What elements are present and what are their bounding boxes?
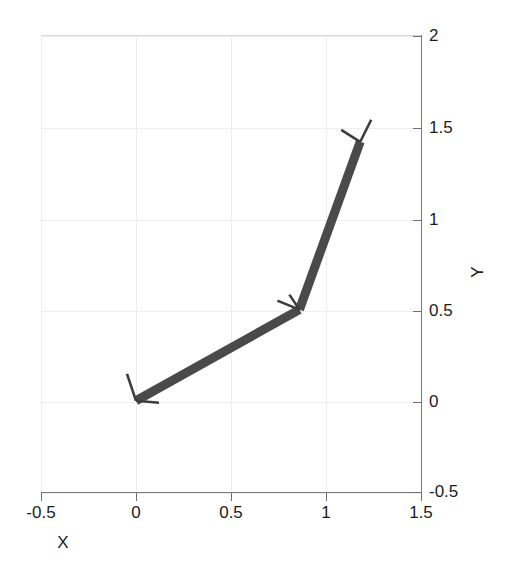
- gridline-y-0: [41, 402, 421, 403]
- gridline-x--0.5: [41, 36, 42, 493]
- x-tick-label-0: -0.5: [26, 503, 55, 523]
- x-tick-label-1: 0: [131, 503, 140, 523]
- gridline-y-2: [41, 36, 421, 37]
- gridline-y-0.5: [41, 311, 421, 312]
- y-axis-line: [421, 35, 422, 493]
- x-tick-label-2: 0.5: [219, 503, 243, 523]
- gridline-y-1: [41, 220, 421, 221]
- y-tick-label-2: 1: [429, 210, 438, 230]
- y-tick-label-3: 0.5: [429, 301, 453, 321]
- y-tick-label-0: 2: [429, 26, 438, 46]
- x-tick-mark-2: [231, 493, 232, 501]
- y-tick-mark-0.5: [413, 311, 421, 312]
- y-tick-mark--0.5: [413, 492, 421, 493]
- x-tick-mark-0: [41, 493, 42, 501]
- gridline-y-1.5: [41, 128, 421, 129]
- gridline-x-1: [326, 36, 327, 493]
- robot-arm-plot-figure: -0.5 0 0.5 1 1.5 2 1.5 1 0.5 0 -0.5 X Y: [0, 0, 511, 564]
- x-tick-label-3: 1: [321, 503, 330, 523]
- plot-area: [41, 36, 421, 493]
- y-tick-label-5: -0.5: [429, 482, 458, 502]
- y-tick-label-1: 1.5: [429, 118, 453, 138]
- x-tick-mark-1: [136, 493, 137, 501]
- x-axis-label: X: [57, 533, 68, 553]
- y-tick-mark-2: [413, 36, 421, 37]
- y-tick-label-4: 0: [429, 392, 438, 412]
- x-tick-mark-3: [326, 493, 327, 501]
- y-tick-mark-1: [413, 220, 421, 221]
- gridline-x-0: [136, 36, 137, 493]
- y-tick-mark-1.5: [413, 128, 421, 129]
- y-axis-label: Y: [468, 266, 488, 277]
- y-tick-mark-0: [413, 402, 421, 403]
- x-tick-mark-4: [421, 493, 422, 501]
- x-tick-label-4: 1.5: [409, 503, 433, 523]
- gridline-x-0.5: [231, 36, 232, 493]
